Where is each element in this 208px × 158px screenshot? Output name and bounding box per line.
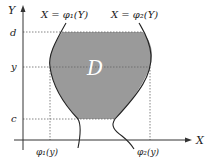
tick-phi2-y: φ₂(y) <box>137 147 160 157</box>
left-curve-label: X = φ₁(Y) <box>40 9 88 20</box>
tick-phi1-y: φ₁(y) <box>36 147 59 157</box>
tick-d: d <box>10 27 16 38</box>
x-axis-arrow-icon <box>185 138 192 143</box>
y-axis-label: Y <box>8 4 17 17</box>
region-label-d: D <box>86 56 103 80</box>
x-axis-label: X <box>195 134 205 147</box>
y-axis-arrow-icon <box>21 5 26 12</box>
tick-c: c <box>11 113 17 124</box>
region-diagram: Y X X = φ₁(Y) X = φ₂(Y) d y c φ₁(y) φ₂(y… <box>0 0 208 158</box>
right-curve-label: X = φ₂(Y) <box>110 9 158 20</box>
tick-y: y <box>10 61 17 72</box>
